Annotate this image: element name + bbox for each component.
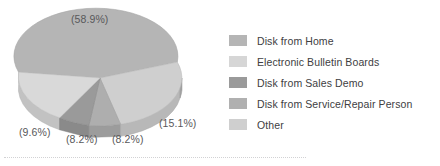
pie-chart-figure: (58.9%) (15.1%) (8.2%) (8.2%) (9.6%) Dis… xyxy=(0,0,440,166)
legend-swatch-icon xyxy=(229,119,247,130)
data-label-electronic-bulletin-boards: (15.1%) xyxy=(159,117,196,129)
footer-divider xyxy=(4,157,306,159)
data-label-disk-from-home: (58.9%) xyxy=(71,13,108,25)
data-label-disk-from-sales-demo: (8.2%) xyxy=(66,133,98,145)
legend-swatch-icon xyxy=(229,98,247,109)
chart-legend: Disk from Home Electronic Bulletin Board… xyxy=(229,30,439,135)
legend-label-disk-from-service-repair-person: Disk from Service/Repair Person xyxy=(257,98,412,110)
legend-swatch-icon xyxy=(229,35,247,46)
legend-item-electronic-bulletin-boards: Electronic Bulletin Boards xyxy=(229,51,439,72)
legend-label-electronic-bulletin-boards: Electronic Bulletin Boards xyxy=(257,56,379,68)
legend-item-disk-from-sales-demo: Disk from Sales Demo xyxy=(229,72,439,93)
legend-label-disk-from-home: Disk from Home xyxy=(257,35,334,47)
legend-label-disk-from-sales-demo: Disk from Sales Demo xyxy=(257,77,363,89)
legend-item-disk-from-home: Disk from Home xyxy=(229,30,439,51)
pie-plot-area: (58.9%) (15.1%) (8.2%) (8.2%) (9.6%) xyxy=(0,0,225,152)
legend-item-disk-from-service-repair-person: Disk from Service/Repair Person xyxy=(229,93,439,114)
legend-swatch-icon xyxy=(229,56,247,67)
data-label-other: (9.6%) xyxy=(19,126,51,138)
legend-swatch-icon xyxy=(229,77,247,88)
legend-label-other: Other xyxy=(257,119,284,131)
pie-top-face xyxy=(14,8,182,126)
legend-item-other: Other xyxy=(229,114,439,135)
data-label-disk-from-service-repair-person: (8.2%) xyxy=(112,133,144,145)
